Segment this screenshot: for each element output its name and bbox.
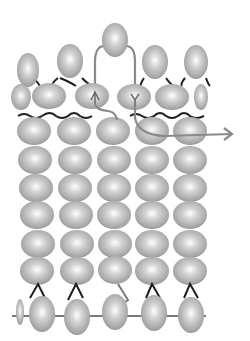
bead-grid: [17, 117, 207, 285]
bead-second-row: [11, 83, 208, 110]
bead-bottom-row: [16, 294, 204, 335]
bead-top-center: [102, 23, 128, 57]
bead-diagram: [0, 0, 250, 341]
